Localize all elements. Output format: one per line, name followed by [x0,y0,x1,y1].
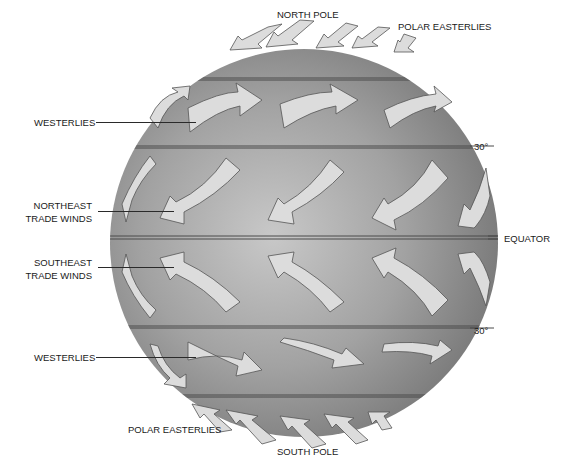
polar-easterlies-north-arrows [230,20,416,52]
north-pole-label: NORTH POLE [277,8,339,21]
arrow-icon [266,20,314,47]
northeast-trade-winds-leader-line [98,211,174,212]
wind-belts-diagram: NORTH POLE POLAR EASTERLIES WESTERLIES 3… [0,0,566,471]
globe-graphic [0,0,566,471]
lat-30-north-label: 30° [474,140,488,153]
polar-easterlies-north-label: POLAR EASTERLIES [398,20,491,33]
lat-30-south-label: 30° [474,324,488,337]
westerlies-south-label: WESTERLIES [34,351,95,364]
southeast-trade-winds-label: SOUTHEAST TRADE WINDS [22,256,92,282]
westerlies-north-label: WESTERLIES [34,116,95,129]
polar-easterlies-south-label: POLAR EASTERLIES [128,423,221,436]
arrow-icon [316,23,358,48]
southeast-trade-winds-leader-line [98,267,174,268]
south-pole-label: SOUTH POLE [277,445,338,458]
westerlies-south-leader-line [96,357,196,358]
westerlies-north-leader-line [96,122,196,123]
northeast-trade-winds-label: NORTHEAST TRADE WINDS [22,199,92,225]
arrow-icon [394,34,416,52]
equator-label: EQUATOR [504,232,550,245]
arrow-icon [352,27,390,48]
